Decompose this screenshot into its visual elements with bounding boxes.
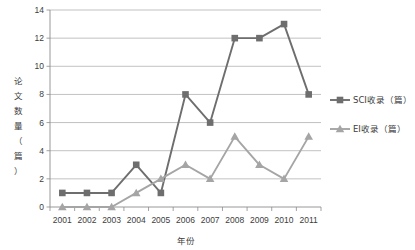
x-tick-label: 2006 — [176, 215, 195, 225]
x-tick-label: 2001 — [53, 215, 72, 225]
data-point-marker — [59, 190, 66, 197]
data-point-marker — [281, 21, 288, 28]
data-point-marker — [231, 35, 238, 42]
x-tick-label: 2005 — [151, 215, 170, 225]
y-tick-label: 8 — [39, 89, 44, 99]
y-tick-label: 0 — [39, 202, 44, 212]
legend-label: EI收录（篇） — [353, 124, 406, 134]
data-point-marker — [182, 91, 189, 98]
x-tick-label: 2009 — [250, 215, 269, 225]
x-tick-label: 2007 — [201, 215, 220, 225]
x-tick-label: 2010 — [275, 215, 294, 225]
data-point-marker — [84, 190, 91, 197]
chart-canvas: 02468101214 2001200220032004200520062007… — [0, 0, 415, 250]
x-axis-tick-labels: 2001200220032004200520062007200820092010… — [53, 215, 318, 225]
y-tick-label: 4 — [39, 146, 44, 156]
data-point-marker — [108, 190, 115, 197]
x-tick-label: 2004 — [127, 215, 146, 225]
y-axis-title-char: 量 — [14, 121, 23, 131]
y-tick-label: 6 — [39, 118, 44, 128]
y-tick-label: 14 — [35, 5, 45, 15]
y-axis-title-char: 论 — [14, 76, 23, 86]
y-tick-label: 12 — [35, 33, 45, 43]
data-point-marker — [305, 91, 312, 98]
y-axis-title-char: 文 — [14, 91, 23, 101]
x-tick-label: 2008 — [225, 215, 244, 225]
y-tick-label: 2 — [39, 174, 44, 184]
y-tick-label: 10 — [35, 61, 45, 71]
data-point-marker — [337, 97, 344, 104]
y-axis-title-char: （ — [14, 136, 23, 146]
legend-label: SCI收录（篇） — [353, 95, 412, 105]
line-chart: 02468101214 2001200220032004200520062007… — [0, 0, 415, 250]
y-axis-title-char: ） — [14, 166, 23, 176]
x-tick-label: 2002 — [77, 215, 96, 225]
data-point-marker — [158, 190, 165, 197]
x-axis-title-label: 年份 — [177, 236, 195, 246]
data-point-marker — [256, 35, 263, 42]
y-axis-title-char: 篇 — [14, 151, 23, 161]
y-axis-title-char: 数 — [14, 106, 23, 116]
data-point-marker — [133, 161, 140, 168]
x-tick-label: 2011 — [300, 215, 319, 225]
x-tick-label: 2003 — [102, 215, 121, 225]
data-point-marker — [207, 119, 214, 126]
